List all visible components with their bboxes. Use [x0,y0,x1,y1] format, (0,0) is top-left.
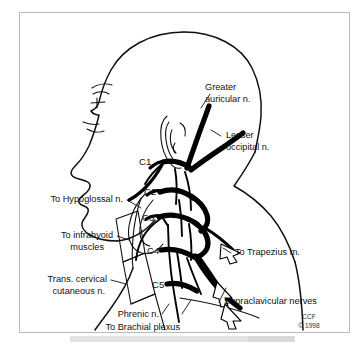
label-greater-auricular-line1: Greater [205,82,236,92]
credit-copyright: © 1998 [298,322,320,329]
credit-block: CCF © 1998 [298,313,320,329]
label-trans-cervical-line2: cutaneous n. [52,286,105,296]
label-supraclavicular-nerves: Supraclavicular nerves [224,296,317,306]
label-to-infrahyoid-line2: muscles [70,242,104,252]
anatomy-diagram: C1 C2 C3 C4 C5 Greater auricular n. Less… [19,12,350,333]
root-label-c3: C3 [142,212,154,223]
label-trans-cervical-line1: Trans. cervical [48,274,107,284]
label-lesser-occipital-line2: occipital n. [226,142,269,152]
leader-trans-cervical [111,280,126,284]
label-to-hypoglossal: To Hypoglossal n. [50,194,123,204]
credit-org: CCF [302,313,316,320]
label-to-brachial-plexus: To Brachial plexus [105,322,180,332]
label-to-trapezius: To Trapezius m. [235,247,300,257]
leader-brachial [182,300,191,314]
label-phrenic: Phrenic n. [118,309,159,319]
label-lesser-occipital-line1: Lesser [226,130,254,140]
root-label-c5: C5 [152,279,164,290]
figure-root: C1 C2 C3 C4 C5 Greater auricular n. Less… [0,0,364,354]
root-label-c2: C2 [144,186,156,197]
annotation-labels: Greater auricular n. Lesser occipital n.… [48,82,318,332]
label-greater-auricular-line2: auricular n. [205,94,250,104]
label-to-infrahyoid-line1: To infrahyoid [61,230,113,240]
eye-and-brow [91,84,112,108]
leader-phrenic [162,304,169,314]
leader-lesser-occipital [211,130,221,136]
nostril-detail [83,122,104,132]
root-label-c1: C1 [139,156,151,167]
root-label-c4: C4 [147,245,160,256]
plate-shadow-dark [248,336,294,342]
